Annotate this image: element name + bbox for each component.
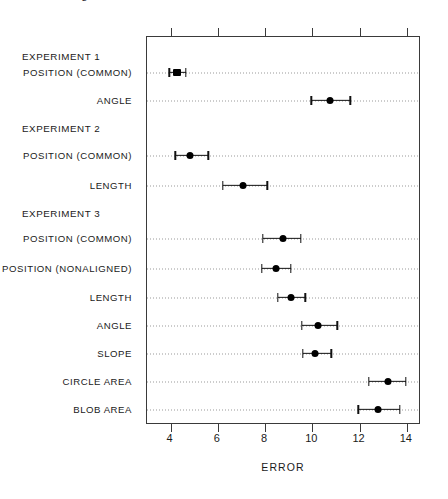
experiment-group-label: EXPERIMENT 1: [22, 51, 100, 62]
data-point-marker: [173, 69, 181, 76]
data-row: [147, 326, 419, 327]
data-point-marker: [186, 152, 193, 159]
x-tick-top: [407, 28, 408, 37]
category-label: BLOB AREA: [73, 404, 132, 415]
experiment-group-label: EXPERIMENT 2: [22, 123, 100, 134]
category-label: POSITION (NONALIGNED): [2, 263, 132, 274]
x-tick-label: 14: [400, 432, 412, 444]
row-guide-line: [147, 354, 419, 355]
x-tick-label: 10: [305, 432, 317, 444]
error-bar-cap: [169, 68, 170, 77]
data-point-marker: [288, 294, 295, 301]
x-tick-bottom: [312, 423, 313, 432]
category-label: SLOPE: [97, 348, 132, 359]
data-row: [147, 382, 419, 383]
data-row: [147, 186, 419, 187]
data-row: [147, 101, 419, 102]
error-bar-cap: [185, 68, 186, 77]
experiment-group-label: EXPERIMENT 3: [22, 208, 100, 219]
x-tick-bottom: [265, 423, 266, 432]
data-row: [147, 298, 419, 299]
x-tick-top: [312, 28, 313, 37]
error-bar-cap: [310, 96, 311, 105]
error-bar-cap: [261, 264, 262, 273]
data-row: [147, 156, 419, 157]
data-row: [147, 239, 419, 240]
x-tick-top: [218, 28, 219, 37]
error-bar-cap: [358, 405, 359, 414]
error-bar-cap: [301, 321, 302, 330]
category-label: ANGLE: [97, 95, 132, 106]
error-bar-cap: [222, 181, 223, 190]
category-label: POSITION (COMMON): [23, 67, 132, 78]
x-tick-label: 6: [214, 432, 220, 444]
error-bar-cap: [305, 293, 306, 302]
data-point-marker: [315, 322, 322, 329]
row-guide-line: [147, 186, 419, 187]
error-bar-cap: [300, 234, 301, 243]
x-tick-top: [360, 28, 361, 37]
data-point-marker: [279, 235, 286, 242]
x-tick-bottom: [171, 423, 172, 432]
error-bar-cap: [302, 349, 303, 358]
error-bar-cap: [399, 405, 400, 414]
data-point-marker: [384, 378, 391, 385]
data-point-marker: [327, 97, 334, 104]
x-tick-top: [265, 28, 266, 37]
category-label: ANGLE: [97, 320, 132, 331]
data-row: [147, 73, 419, 74]
x-tick-top: [171, 28, 172, 37]
data-point-marker: [375, 406, 382, 413]
data-row: [147, 410, 419, 411]
category-label: LENGTH: [90, 180, 132, 191]
plot-area: [146, 36, 420, 424]
row-guide-line: [147, 73, 419, 74]
row-guide-line: [147, 326, 419, 327]
x-tick-label: 4: [167, 432, 173, 444]
data-point-marker: [311, 350, 318, 357]
data-row: [147, 354, 419, 355]
data-point-marker: [272, 265, 279, 272]
category-label: LENGTH: [90, 292, 132, 303]
category-label: POSITION (COMMON): [23, 233, 132, 244]
error-bar-cap: [290, 264, 291, 273]
error-bar-cap: [262, 234, 263, 243]
x-axis-title: ERROR: [146, 461, 420, 473]
row-label-column: EXPERIMENT 1POSITION (COMMON)ANGLEEXPERI…: [0, 0, 140, 499]
x-tick-bottom: [218, 423, 219, 432]
error-bar-cap: [368, 377, 369, 386]
error-bar-cap: [336, 321, 337, 330]
error-bar-cap: [175, 151, 176, 160]
x-tick-bottom: [360, 423, 361, 432]
x-tick-label: 8: [261, 432, 267, 444]
row-guide-line: [147, 101, 419, 102]
x-tick-label: 12: [352, 432, 364, 444]
data-point-marker: [239, 182, 246, 189]
data-row: [147, 269, 419, 270]
error-bar-cap: [405, 377, 406, 386]
error-bar-cap: [349, 96, 350, 105]
error-bar-cap: [277, 293, 278, 302]
category-label: CIRCLE AREA: [63, 376, 133, 387]
error-bar-cap: [331, 349, 332, 358]
x-tick-bottom: [407, 423, 408, 432]
category-label: POSITION (COMMON): [23, 150, 132, 161]
error-bar-cap: [208, 151, 209, 160]
error-bar-cap: [267, 181, 268, 190]
error-bar-chart-figure: Error bars: logs of midmeans of absolute…: [0, 0, 448, 499]
